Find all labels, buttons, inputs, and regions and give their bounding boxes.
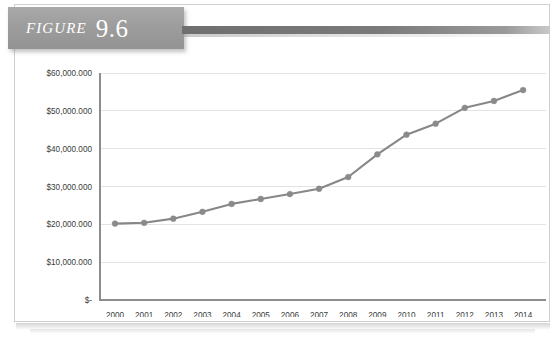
- series-markers: [112, 87, 526, 226]
- y-axis-tick-label: $-: [85, 296, 93, 305]
- x-axis-tick-label: 2004: [222, 311, 241, 317]
- y-axis-tick-label: $30,000.000: [46, 183, 92, 192]
- x-axis-tick-label: 2011: [427, 311, 445, 317]
- banner-rule: [182, 26, 550, 34]
- x-axis-tick-label: 2005: [252, 311, 271, 317]
- x-axis-tick-label: 2013: [485, 311, 504, 317]
- data-point-marker: [520, 87, 526, 93]
- figure-number: 9.6: [96, 16, 129, 41]
- x-axis-tick-label: 2009: [368, 311, 387, 317]
- x-axis-tick-label: 2001: [135, 311, 154, 317]
- chart-svg: $-$10,000.000$20,000.000$30,000.000$40,0…: [14, 55, 550, 317]
- data-point-marker: [200, 209, 206, 215]
- figure-label: FIGURE: [26, 21, 87, 36]
- data-point-marker: [316, 186, 322, 192]
- data-point-marker: [345, 174, 351, 180]
- data-point-marker: [287, 191, 293, 197]
- y-axis-tick-labels: $-$10,000.000$20,000.000$30,000.000$40,0…: [46, 69, 92, 305]
- line-chart: $-$10,000.000$20,000.000$30,000.000$40,0…: [14, 55, 550, 317]
- data-point-marker: [258, 196, 264, 202]
- y-axis-tick-label: $10,000.000: [46, 258, 92, 267]
- x-axis-tick-label: 2014: [514, 311, 533, 317]
- page-bottom-shadow-secondary: [30, 329, 535, 334]
- data-point-marker: [374, 151, 380, 157]
- x-axis-tick-label: 2006: [281, 311, 300, 317]
- data-point-marker: [462, 105, 468, 111]
- gridlines: [100, 73, 546, 262]
- data-point-marker: [433, 121, 439, 127]
- x-axis-tick-label: 2003: [193, 311, 212, 317]
- banner-rule-shadow: [184, 34, 548, 37]
- x-axis-tick-label: 2008: [339, 311, 358, 317]
- data-point-marker: [112, 221, 118, 227]
- data-point-marker: [141, 220, 147, 226]
- data-point-marker: [404, 132, 410, 138]
- y-axis-tick-label: $40,000.000: [46, 145, 92, 154]
- figure-banner: FIGURE 9.6: [8, 7, 184, 49]
- x-axis-tick-labels: 2000200120022003200420052006200720082009…: [106, 311, 533, 317]
- data-point-marker: [229, 201, 235, 207]
- x-axis-tick-label: 2010: [397, 311, 416, 317]
- y-axis-tick-label: $20,000.000: [46, 220, 92, 229]
- y-axis-tick-label: $50,000.000: [46, 107, 92, 116]
- x-axis-tick-label: 2002: [164, 311, 183, 317]
- series-line: [115, 90, 523, 224]
- x-axis-tick-label: 2000: [106, 311, 125, 317]
- x-axis-tick-label: 2012: [456, 311, 475, 317]
- data-point-marker: [491, 98, 497, 104]
- data-point-marker: [170, 216, 176, 222]
- x-axis-tick-label: 2007: [310, 311, 329, 317]
- y-axis-tick-label: $60,000.000: [46, 69, 92, 78]
